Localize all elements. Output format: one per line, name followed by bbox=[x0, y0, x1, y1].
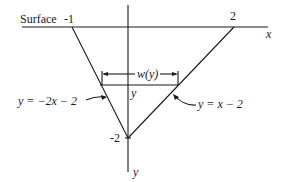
right-side-line bbox=[128, 27, 234, 138]
tick-label-2: 2 bbox=[230, 9, 236, 23]
y-axis-label: y bbox=[132, 165, 139, 179]
x-axis-label: x bbox=[265, 27, 272, 41]
width-label: w(y) bbox=[137, 67, 158, 81]
left-side-line bbox=[72, 27, 128, 138]
right-line-equation: y = x − 2 bbox=[197, 97, 243, 111]
trough-diagram: Surface -1 2 x y w(y) y -2 y = −2x − 2 y… bbox=[0, 0, 290, 182]
arrowhead-left-icon bbox=[102, 72, 108, 76]
tick-label-minus2: -2 bbox=[110, 131, 120, 145]
left-line-equation: y = −2x − 2 bbox=[17, 94, 77, 108]
surface-label: Surface bbox=[20, 12, 57, 26]
level-label: y bbox=[130, 86, 137, 100]
tick-label-minus1: -1 bbox=[64, 12, 74, 26]
arrowhead-right-icon bbox=[172, 72, 178, 76]
